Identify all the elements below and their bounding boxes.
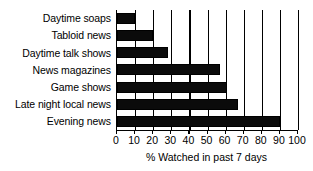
category-label: Daytime soaps — [0, 10, 114, 27]
x-tick-label: 100 — [288, 135, 306, 146]
bar-series — [117, 10, 298, 130]
category-axis-labels: Daytime soapsTabloid newsDaytime talk sh… — [0, 10, 114, 130]
x-tick-label: 60 — [219, 135, 231, 146]
bar — [117, 64, 220, 75]
bar-chart: Daytime soapsTabloid newsDaytime talk sh… — [0, 0, 313, 171]
x-tick-label: 90 — [273, 135, 285, 146]
category-label: Evening news — [0, 113, 114, 130]
x-tick-label: 70 — [237, 135, 249, 146]
category-label: News magazines — [0, 61, 114, 78]
bar — [117, 99, 238, 110]
bar — [117, 13, 135, 24]
x-tick-label: 20 — [146, 135, 158, 146]
x-tick-label: 10 — [128, 135, 140, 146]
bar-row — [117, 44, 298, 61]
bar — [117, 47, 168, 58]
category-label: Late night local news — [0, 96, 114, 113]
gridline — [298, 10, 299, 130]
bar-row — [117, 10, 298, 27]
x-tick-label: 40 — [183, 135, 195, 146]
x-tick-label: 30 — [164, 135, 176, 146]
category-label: Daytime talk shows — [0, 44, 114, 61]
bar — [117, 82, 227, 93]
x-tick-label: 50 — [201, 135, 213, 146]
bar-row — [117, 27, 298, 44]
bar-row — [117, 79, 298, 96]
bar-row — [117, 113, 298, 130]
plot-area — [116, 10, 298, 130]
bar-row — [117, 61, 298, 78]
category-label: Tabloid news — [0, 27, 114, 44]
bar — [117, 30, 153, 41]
bar-row — [117, 96, 298, 113]
x-tick-label: 80 — [255, 135, 267, 146]
x-tick-label: 0 — [113, 135, 119, 146]
x-axis-title: % Watched in past 7 days — [116, 152, 297, 163]
bar — [117, 116, 280, 127]
category-label: Game shows — [0, 79, 114, 96]
